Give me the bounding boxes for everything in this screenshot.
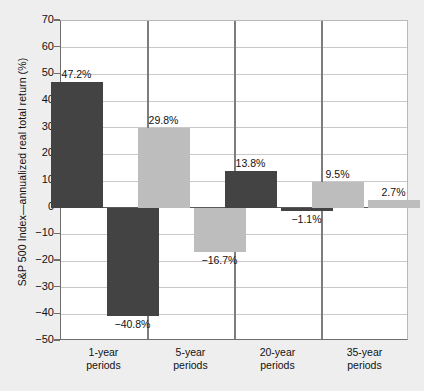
bar bbox=[51, 82, 103, 208]
bar-value-label: 13.8% bbox=[212, 157, 290, 169]
y-axis-tick-label: 30 bbox=[0, 120, 54, 132]
category-label-line1: 1-year bbox=[60, 346, 147, 359]
bar-value-label: −16.7% bbox=[181, 254, 259, 266]
y-axis-tick-label: 10 bbox=[0, 173, 54, 185]
bar bbox=[107, 208, 159, 317]
bar-value-label: −1.1% bbox=[268, 213, 346, 225]
y-axis-tick-label: −10 bbox=[0, 226, 54, 238]
category-label-line2: periods bbox=[321, 359, 408, 372]
bar-value-label: 9.5% bbox=[299, 168, 377, 180]
y-axis-tick-label: −40 bbox=[0, 306, 54, 318]
bar-value-label: −40.8% bbox=[94, 318, 172, 330]
x-axis-category-label: 35-yearperiods bbox=[321, 346, 408, 372]
category-label-line2: periods bbox=[147, 359, 234, 372]
bar-value-label: 2.7% bbox=[355, 186, 424, 198]
bar bbox=[281, 208, 333, 211]
plot-area: 47.2%−40.8%29.8%−16.7%13.8%−1.1%9.5%2.7% bbox=[60, 20, 408, 340]
bar bbox=[138, 128, 190, 207]
category-label-line1: 35-year bbox=[321, 346, 408, 359]
category-label-line2: periods bbox=[234, 359, 321, 372]
category-label-line1: 20-year bbox=[234, 346, 321, 359]
y-axis-tick-label: 70 bbox=[0, 13, 54, 25]
category-label-line1: 5-year bbox=[147, 346, 234, 359]
x-axis-category-label: 20-yearperiods bbox=[234, 346, 321, 372]
y-axis-tick-label: 20 bbox=[0, 146, 54, 158]
y-axis-tick-label: −20 bbox=[0, 253, 54, 265]
x-axis-category-label: 1-yearperiods bbox=[60, 346, 147, 372]
bar-value-label: 47.2% bbox=[38, 68, 116, 80]
y-axis-tick-label: 40 bbox=[0, 93, 54, 105]
y-axis-tick-label: −50 bbox=[0, 333, 54, 345]
bar bbox=[225, 171, 277, 208]
bar bbox=[194, 208, 246, 253]
y-axis-tick-label: 0 bbox=[0, 200, 54, 212]
bar bbox=[368, 200, 420, 207]
bar-value-label: 29.8% bbox=[125, 114, 203, 126]
x-axis-category-label: 5-yearperiods bbox=[147, 346, 234, 372]
y-axis-tick-label: 60 bbox=[0, 40, 54, 52]
category-label-line2: periods bbox=[60, 359, 147, 372]
y-axis-tick-label: −30 bbox=[0, 280, 54, 292]
